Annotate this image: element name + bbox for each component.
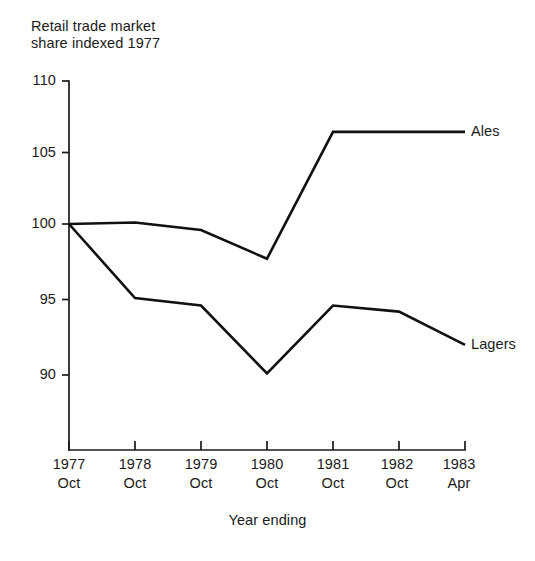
x-tick-label-1979: 1979 Oct [166, 455, 236, 493]
series-label-ales: Ales [471, 123, 500, 139]
x-tick-year-1981: 1981 [298, 455, 368, 474]
x-tick-month-1978: Oct [100, 474, 170, 493]
x-tick-label-1981: 1981 Oct [298, 455, 368, 493]
x-tick-year-1980: 1980 [232, 455, 302, 474]
x-tick-label-1980: 1980 Oct [232, 455, 302, 493]
series-line-lagers [69, 224, 465, 374]
x-tick-month-1979: Oct [166, 474, 236, 493]
x-tick-month-1982: Oct [362, 474, 432, 493]
x-tick-month-1977: Oct [34, 474, 104, 493]
x-tick-year-1978: 1978 [100, 455, 170, 474]
y-tick-label-110: 110 [10, 72, 56, 88]
chart-figure: Retail trade marketshare indexed 1977 11… [0, 0, 535, 561]
y-tick-label-100: 100 [10, 215, 56, 231]
y-tick-label-90: 90 [10, 366, 56, 382]
x-tick-year-1979: 1979 [166, 455, 236, 474]
x-tick-label-1982: 1982 Oct [362, 455, 432, 493]
series-line-ales [69, 132, 465, 259]
series-label-lagers: Lagers [471, 336, 516, 352]
x-tick-year-1982: 1982 [362, 455, 432, 474]
x-axis-title: Year ending [0, 512, 535, 528]
y-tick-label-95: 95 [10, 291, 56, 307]
x-tick-year-1983: 1983 [424, 455, 494, 474]
x-tick-month-1983: Apr [424, 474, 494, 493]
y-tick-label-105: 105 [10, 144, 56, 160]
x-tick-month-1980: Oct [232, 474, 302, 493]
x-tick-year-1977: 1977 [34, 455, 104, 474]
x-tick-label-1978: 1978 Oct [100, 455, 170, 493]
x-tick-label-1983: 1983 Apr [424, 455, 494, 493]
x-tick-label-1977: 1977 Oct [34, 455, 104, 493]
x-tick-month-1981: Oct [298, 474, 368, 493]
